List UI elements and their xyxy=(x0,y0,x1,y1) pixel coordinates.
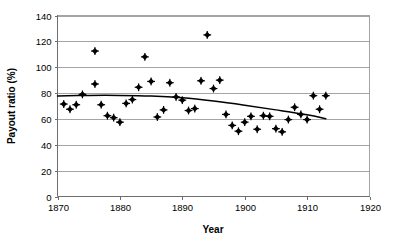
y-tick-label-120: 120 xyxy=(36,36,52,47)
y-tick-label-60: 60 xyxy=(41,114,52,125)
y-tick-label-80: 80 xyxy=(41,88,52,99)
y-axis-title: Payout ratio (%) xyxy=(6,68,17,144)
y-tick-label-140: 140 xyxy=(36,11,52,22)
x-tick-label-1920: 1920 xyxy=(360,202,381,213)
y-tick-label-40: 40 xyxy=(41,140,52,151)
y-tick-label-100: 100 xyxy=(36,62,52,73)
x-tick-label-1900: 1900 xyxy=(235,202,256,213)
x-tick-label-1880: 1880 xyxy=(110,202,131,213)
x-axis-title: Year xyxy=(202,224,223,235)
payout-ratio-scatter-chart: 020406080100120140 187018801890190019101… xyxy=(0,0,396,250)
x-tick-label-1910: 1910 xyxy=(297,202,318,213)
x-tick-label-1870: 1870 xyxy=(48,202,69,213)
x-tick-label-1890: 1890 xyxy=(172,202,193,213)
chart-background xyxy=(0,0,396,250)
y-tick-label-20: 20 xyxy=(41,166,52,177)
chart-figure: 020406080100120140 187018801890190019101… xyxy=(0,0,396,250)
